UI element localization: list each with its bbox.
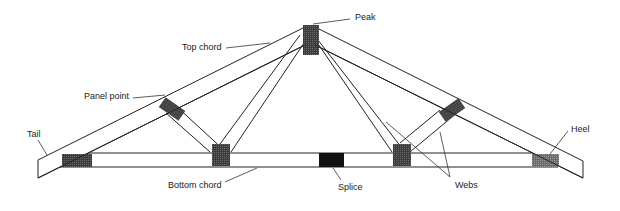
peak-label: Peak xyxy=(355,12,376,22)
top-chord-label: Top chord xyxy=(182,42,222,52)
bottom-chord xyxy=(60,153,558,167)
right-heel-plate xyxy=(532,154,559,167)
heel-label: Heel xyxy=(571,124,590,134)
right-bottom-plate xyxy=(393,144,411,166)
tail-label: Tail xyxy=(27,129,41,139)
splice-label: Splice xyxy=(338,182,363,192)
splice-plate xyxy=(319,153,344,167)
panel-point-leader xyxy=(133,95,165,98)
left-heel-plate xyxy=(62,154,92,167)
tail-leader xyxy=(38,140,47,155)
panel-point-label: Panel point xyxy=(84,91,129,101)
webs-leader-2 xyxy=(440,132,450,177)
left-bottom-plate xyxy=(212,144,230,166)
bottom-chord-label: Bottom chord xyxy=(168,180,222,190)
splice-leader xyxy=(333,168,341,180)
webs-label: Webs xyxy=(455,180,478,190)
truss-diagram xyxy=(0,0,620,211)
peak-plate xyxy=(303,25,319,55)
bottom-chord-leader xyxy=(225,168,257,182)
peak-leader xyxy=(313,19,350,24)
